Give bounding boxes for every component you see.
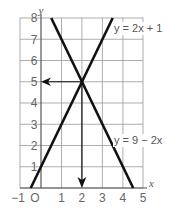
svg-text:5: 5 xyxy=(31,75,38,89)
svg-text:2: 2 xyxy=(79,191,86,205)
svg-text:2: 2 xyxy=(31,139,38,153)
label-line1: y = 2x + 1 xyxy=(114,22,162,34)
svg-text:7: 7 xyxy=(31,33,38,47)
x-tick-labels: −1 O 1 2 3 4 5 xyxy=(11,191,147,205)
svg-text:−1: −1 xyxy=(11,191,25,205)
svg-text:6: 6 xyxy=(31,54,38,68)
svg-text:O: O xyxy=(30,191,39,205)
svg-text:3: 3 xyxy=(99,191,106,205)
svg-text:3: 3 xyxy=(31,118,38,132)
svg-text:4: 4 xyxy=(120,191,127,205)
x-axis-label: x xyxy=(148,177,154,189)
graph: 8 7 6 5 4 3 2 1 −1 O 1 2 3 4 5 y x y = 2… xyxy=(0,0,172,212)
svg-text:5: 5 xyxy=(140,191,147,205)
y-axis-label: y xyxy=(38,4,44,16)
y-tick-labels: 8 7 6 5 4 3 2 1 xyxy=(31,11,38,174)
svg-text:1: 1 xyxy=(31,160,38,174)
svg-text:4: 4 xyxy=(31,96,38,110)
svg-text:1: 1 xyxy=(58,191,65,205)
svg-text:8: 8 xyxy=(31,11,38,25)
label-line2: y = 9 − 2x xyxy=(114,134,163,146)
